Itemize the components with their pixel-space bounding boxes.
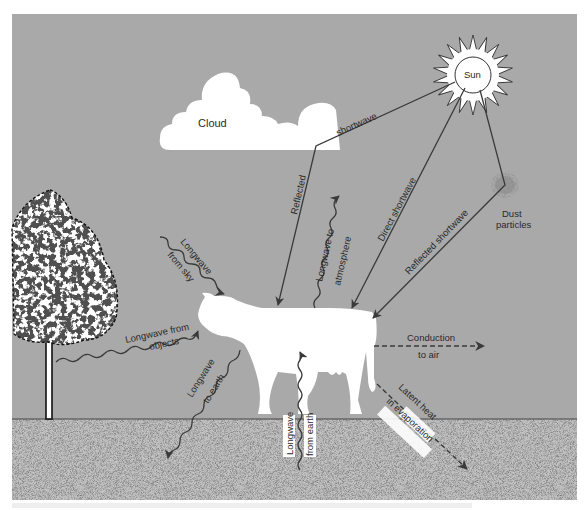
cloud-label: Cloud — [198, 117, 227, 129]
conduction-label-2: to air — [418, 349, 439, 360]
dust-label-line1: Dust — [502, 208, 522, 219]
dust-label-line2: particles — [496, 219, 532, 230]
tree-trunk — [46, 330, 52, 419]
caption-remnant — [12, 503, 472, 508]
longwave-from-earth-label-1: Longwave — [284, 412, 295, 455]
energy-exchange-diagram: Cloud Sun Dust — [0, 0, 587, 510]
longwave-from-earth-label-2: from earth — [304, 413, 315, 456]
conduction-label-1: Conduction — [407, 332, 455, 343]
sun-label: Sun — [464, 69, 481, 80]
